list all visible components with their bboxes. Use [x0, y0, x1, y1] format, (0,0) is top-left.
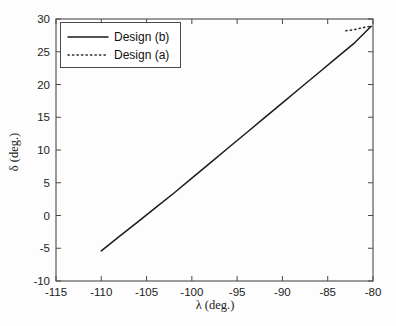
y-tick-label: 10 [37, 144, 50, 156]
y-tick-label: 0 [44, 210, 50, 222]
chart-plot: -115-110-105-100-95-90-85-80 -10-5051015… [0, 0, 396, 326]
x-tick-label: -85 [319, 286, 336, 298]
chart-legend: Design (b) Design (a) [61, 23, 181, 68]
y-tick-label: -10 [33, 275, 50, 287]
x-axis-tick-labels: -115-110-105-100-95-90-85-80 [45, 286, 381, 298]
y-tick-label: 30 [37, 13, 50, 25]
x-tick-label: -110 [90, 286, 112, 298]
x-tick-label: -95 [229, 286, 246, 298]
x-tick-label: -115 [45, 286, 67, 298]
x-tick-label: -105 [135, 286, 158, 298]
y-tick-label: 15 [37, 111, 50, 123]
y-tick-label: 25 [37, 46, 50, 58]
figure-canvas: -115-110-105-100-95-90-85-80 -10-5051015… [0, 0, 396, 326]
x-tick-label: -80 [365, 286, 382, 298]
y-tick-label: -5 [40, 242, 50, 254]
legend-label-design-a: Design (a) [114, 48, 169, 62]
y-axis-tick-labels: -10-5051015202530 [33, 13, 50, 287]
y-tick-label: 20 [37, 79, 50, 91]
x-tick-label: -90 [274, 286, 291, 298]
x-axis-title: λ (deg.) [196, 298, 235, 312]
legend-label-design-b: Design (b) [114, 30, 169, 44]
y-axis-title: δ (deg.) [7, 133, 21, 172]
x-tick-label: -100 [180, 286, 203, 298]
y-tick-label: 5 [44, 177, 50, 189]
